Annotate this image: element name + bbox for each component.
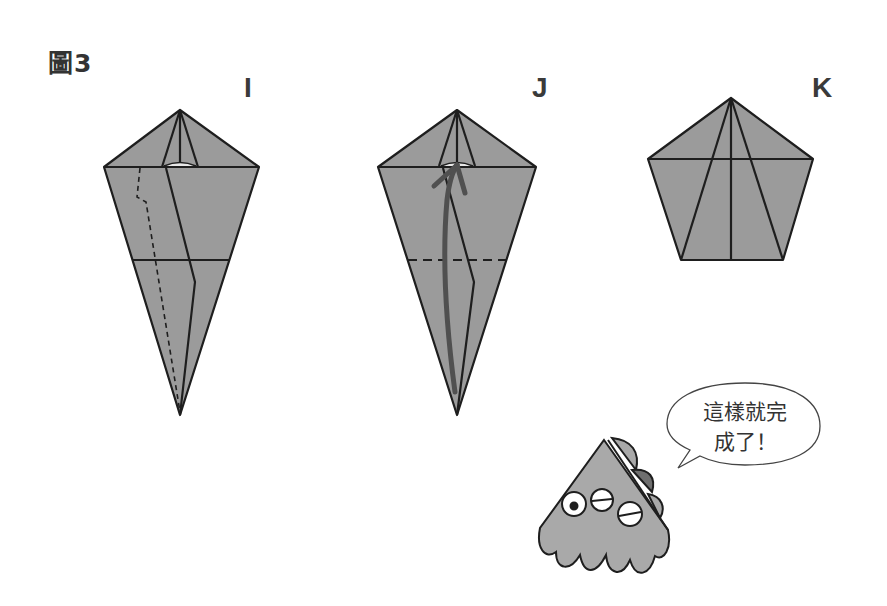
speech-text: 這樣就完 成了！ [680, 397, 810, 457]
mascot-character [539, 438, 669, 573]
step-k-diagram [648, 98, 813, 260]
speech-line-1: 這樣就完 [680, 397, 810, 427]
speech-line-2: 成了！ [680, 427, 810, 457]
step-j-diagram [378, 110, 536, 415]
diagram-canvas [0, 0, 887, 606]
step-i-diagram [104, 110, 259, 415]
